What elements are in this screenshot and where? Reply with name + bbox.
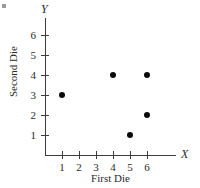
x-axis-tick — [96, 151, 97, 159]
y-axis-name: Y — [41, 3, 48, 15]
x-axis-tick — [113, 151, 114, 159]
data-point — [144, 72, 150, 78]
x-axis-title: First Die — [45, 173, 176, 184]
data-point — [110, 72, 116, 78]
x-axis-line — [45, 155, 176, 156]
x-axis-tick-label: 1 — [55, 162, 69, 173]
y-axis-tick — [41, 135, 49, 136]
x-axis-name: X — [181, 148, 188, 160]
corner-mark — [2, 4, 6, 8]
data-point — [127, 132, 133, 138]
y-axis-tick-label: 5 — [22, 50, 36, 61]
y-axis-tick-label: 1 — [22, 130, 36, 141]
y-axis-tick — [41, 115, 49, 116]
x-axis-tick-label: 5 — [123, 162, 137, 173]
x-axis-tick — [130, 151, 131, 159]
x-axis-tick-label: 6 — [140, 162, 154, 173]
y-axis-tick-label: 2 — [22, 110, 36, 121]
x-axis-tick — [147, 151, 148, 159]
y-axis-tick-label: 6 — [22, 30, 36, 41]
scatter-plot-figure: Y X Second Die First Die 123456123456 — [0, 0, 200, 188]
data-point — [59, 92, 65, 98]
y-axis-title: Second Die — [8, 35, 19, 109]
x-axis-tick-label: 2 — [72, 162, 86, 173]
y-axis-tick — [41, 75, 49, 76]
y-axis-tick-label: 3 — [22, 90, 36, 101]
data-point — [144, 112, 150, 118]
y-axis-tick-label: 4 — [22, 70, 36, 81]
y-axis-tick — [41, 35, 49, 36]
y-axis-tick — [41, 55, 49, 56]
y-axis-tick — [41, 95, 49, 96]
x-axis-tick-label: 3 — [89, 162, 103, 173]
x-axis-tick — [62, 151, 63, 159]
x-axis-tick — [79, 151, 80, 159]
x-axis-tick-label: 4 — [106, 162, 120, 173]
